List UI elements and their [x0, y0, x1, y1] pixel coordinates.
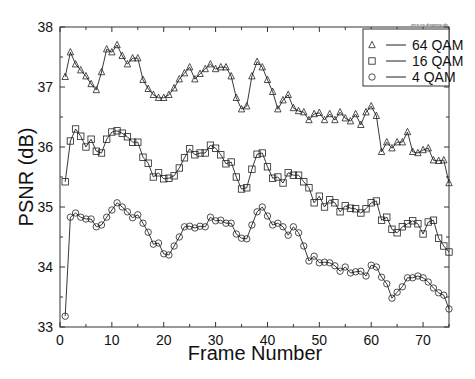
- x-tick-label: 20: [156, 332, 172, 348]
- y-tick-label: 38: [37, 19, 53, 35]
- triangle-marker-icon: [316, 109, 322, 115]
- x-tick-label: 0: [56, 332, 64, 348]
- legend-label: 64 QAM: [412, 37, 463, 53]
- y-tick-label: 34: [37, 259, 53, 275]
- x-tick-label: 60: [363, 332, 379, 348]
- x-tick-label: 10: [104, 332, 120, 348]
- series-line: [65, 203, 449, 316]
- legend-label: 4 QAM: [412, 69, 456, 85]
- y-tick-label: 33: [37, 319, 53, 335]
- triangle-marker-icon: [425, 145, 431, 151]
- y-tick-label: 35: [37, 199, 53, 215]
- x-axis-title: Frame Number: [188, 342, 323, 364]
- y-axis-title: PSNR (dB): [15, 128, 37, 227]
- file-label: zero-no-dropping.gle: [411, 22, 449, 27]
- x-tick-label: 70: [415, 332, 431, 348]
- psnr-chart: 010203040506070333435363738 zero-no-drop…: [0, 0, 475, 379]
- y-tick-label: 36: [37, 139, 53, 155]
- series-4-qam: [62, 200, 452, 320]
- y-tick-label: 37: [37, 79, 53, 95]
- legend: zero-no-dropping.gle 64 QAM16 QAM4 QAM: [363, 22, 463, 86]
- legend-label: 16 QAM: [412, 53, 463, 69]
